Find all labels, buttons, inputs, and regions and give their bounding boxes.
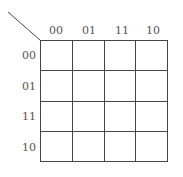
cell-10-11 [105, 132, 137, 162]
cell-01-10 [136, 71, 168, 101]
col-label-00: 00 [49, 25, 63, 36]
cell-10-10 [136, 132, 168, 162]
col-label-01: 01 [82, 25, 96, 36]
cell-10-01 [73, 132, 105, 162]
cell-01-00 [41, 71, 73, 101]
col-label-11: 11 [115, 25, 129, 36]
cell-01-11 [105, 71, 137, 101]
row-label-10: 10 [22, 142, 36, 153]
col-label-10: 10 [146, 25, 160, 36]
cell-00-10 [136, 41, 168, 71]
cell-11-11 [105, 102, 137, 132]
cell-10-00 [41, 132, 73, 162]
cell-11-01 [73, 102, 105, 132]
cell-11-10 [136, 102, 168, 132]
cell-00-00 [41, 41, 73, 71]
cell-01-01 [73, 71, 105, 101]
row-label-00: 00 [22, 50, 36, 61]
row-label-11: 11 [22, 111, 36, 122]
row-label-01: 01 [22, 81, 36, 92]
cell-11-00 [41, 102, 73, 132]
cell-00-11 [105, 41, 137, 71]
cell-00-01 [73, 41, 105, 71]
karnaugh-map-grid [40, 40, 168, 162]
